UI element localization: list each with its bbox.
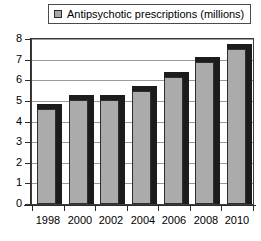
bar (164, 72, 189, 204)
legend-swatch-icon (54, 10, 62, 18)
bar-side-face (56, 104, 62, 204)
x-tick-mark (158, 206, 159, 211)
chart-legend: Antipsychotic prescriptions (millions) (48, 4, 251, 24)
y-tick-label: 7 (16, 54, 22, 65)
y-tick-label: 8 (16, 33, 22, 44)
bar-front-face (195, 62, 214, 204)
y-tick-label: 2 (16, 157, 22, 168)
bar-chart: Antipsychotic prescriptions (millions) 0… (0, 0, 261, 241)
x-tick-mark (32, 206, 33, 211)
bars-layer (32, 39, 253, 204)
y-tick-mark (25, 80, 31, 81)
legend-label: Antipsychotic prescriptions (millions) (67, 8, 244, 20)
y-tick-mark (25, 204, 31, 205)
bar (37, 104, 62, 204)
bar (132, 86, 157, 204)
y-tick-mark (25, 101, 31, 102)
bar-front-face (227, 49, 246, 204)
y-tick-mark (25, 39, 31, 40)
x-tick-label: 2008 (190, 214, 222, 226)
y-tick-label: 1 (16, 177, 22, 188)
bar-front-face (69, 100, 88, 204)
x-tick-label: 1998 (32, 214, 64, 226)
bar-front-face (100, 100, 119, 204)
x-tick-label: 2006 (158, 214, 190, 226)
bar-side-face (119, 95, 125, 204)
x-tick-label: 2002 (95, 214, 127, 226)
y-tick-mark (25, 142, 31, 143)
x-tick-mark (95, 206, 96, 211)
bar-side-face (246, 44, 252, 204)
x-tick-mark (127, 206, 128, 211)
x-tick-label: 2000 (64, 214, 96, 226)
bar-side-face (183, 72, 189, 204)
bar (195, 57, 220, 204)
bar-side-face (151, 86, 157, 204)
bar (227, 44, 252, 204)
bar-front-face (132, 91, 151, 204)
y-tick-mark (25, 163, 31, 164)
y-tick-label: 5 (16, 95, 22, 106)
bar-side-face (214, 57, 220, 204)
bar-side-face (88, 95, 94, 204)
y-tick-label: 3 (16, 136, 22, 147)
plot-area (31, 38, 254, 205)
y-tick-mark (25, 122, 31, 123)
x-tick-mark (221, 206, 222, 211)
y-tick-mark (25, 183, 31, 184)
bar (69, 95, 94, 204)
bar (100, 95, 125, 204)
bar-front-face (37, 109, 56, 204)
y-tick-label: 4 (16, 116, 22, 127)
x-tick-mark (190, 206, 191, 211)
x-tick-mark (253, 206, 254, 211)
y-tick-label: 0 (16, 198, 22, 209)
x-tick-label: 2010 (221, 214, 253, 226)
x-tick-mark (64, 206, 65, 211)
x-tick-label: 2004 (127, 214, 159, 226)
bar-front-face (164, 77, 183, 204)
y-tick-label: 6 (16, 74, 22, 85)
y-tick-mark (25, 60, 31, 61)
